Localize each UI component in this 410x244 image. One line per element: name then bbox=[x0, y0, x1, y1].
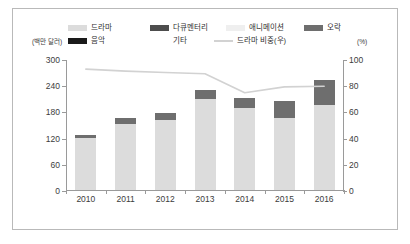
legend-label-drama-share: 드라마 비중(우) bbox=[237, 36, 286, 45]
plot-area: 060120180240300 020406080100 20102011201… bbox=[66, 60, 344, 191]
right-tick-label-100: 100 bbox=[349, 55, 379, 65]
legend-swatch-drama-share bbox=[214, 40, 233, 42]
legend-label-music: 음악 bbox=[91, 36, 105, 45]
x-tick-end bbox=[344, 190, 345, 194]
legend-swatch-entertainment bbox=[304, 25, 323, 31]
x-axis-label-2014: 2014 bbox=[225, 194, 265, 204]
left-tick-label-240: 240 bbox=[30, 81, 60, 91]
left-tick-label-0: 0 bbox=[30, 186, 60, 196]
x-axis-line bbox=[66, 190, 344, 191]
right-tick-80 bbox=[343, 86, 347, 87]
bar-segment-2010-드라마 bbox=[75, 138, 96, 190]
left-axis-unit-label: (백만 달러) bbox=[32, 36, 62, 46]
bar-segment-2013-오락 bbox=[195, 90, 216, 99]
left-tick-300 bbox=[62, 60, 66, 61]
right-tick-label-40: 40 bbox=[349, 134, 379, 144]
right-tick-100 bbox=[343, 60, 347, 61]
right-tick-label-0: 0 bbox=[349, 186, 379, 196]
x-axis-label-2012: 2012 bbox=[145, 194, 185, 204]
right-tick-label-20: 20 bbox=[349, 160, 379, 170]
bar-segment-2010-오락 bbox=[75, 135, 96, 138]
bar-segment-2012-오락 bbox=[155, 113, 176, 120]
bar-group-2011[interactable] bbox=[115, 118, 136, 190]
right-tick-label-80: 80 bbox=[349, 81, 379, 91]
bar-segment-2015-드라마 bbox=[274, 118, 295, 190]
bar-group-2013[interactable] bbox=[195, 90, 216, 190]
bar-segment-2011-오락 bbox=[115, 118, 136, 124]
x-axis-label-2010: 2010 bbox=[66, 194, 106, 204]
right-axis-line bbox=[343, 60, 344, 191]
bar-group-2014[interactable] bbox=[234, 98, 255, 190]
legend-label-other: 기타 bbox=[173, 36, 187, 45]
right-tick-label-60: 60 bbox=[349, 107, 379, 117]
chart-legend: 드라마 음악 다큐멘터리 기타 애니메이션 드라마 비중(우) 오락 bbox=[68, 23, 328, 53]
legend-item-other[interactable]: 기타 bbox=[173, 36, 187, 45]
legend-label-documentary: 다큐멘터리 bbox=[173, 23, 208, 32]
legend-item-drama-share[interactable]: 드라마 비중(우) bbox=[214, 36, 286, 45]
bar-segment-2016-오락 bbox=[314, 80, 335, 105]
x-axis-label-2011: 2011 bbox=[106, 194, 146, 204]
legend-label-drama: 드라마 bbox=[91, 23, 112, 32]
legend-swatch-animation bbox=[226, 25, 245, 31]
legend-swatch-documentary bbox=[150, 25, 169, 31]
legend-item-animation[interactable]: 애니메이션 bbox=[226, 23, 284, 32]
bar-segment-2012-드라마 bbox=[155, 120, 176, 190]
left-tick-label-120: 120 bbox=[30, 134, 60, 144]
right-tick-60 bbox=[343, 112, 347, 113]
bar-group-2010[interactable] bbox=[75, 135, 96, 190]
bar-group-2016[interactable] bbox=[314, 80, 335, 190]
legend-item-entertainment[interactable]: 오락 bbox=[304, 23, 341, 32]
left-tick-60 bbox=[62, 165, 66, 166]
bar-segment-2011-드라마 bbox=[115, 124, 136, 190]
bar-segment-2014-드라마 bbox=[234, 108, 255, 190]
bar-segment-2016-드라마 bbox=[314, 105, 335, 190]
x-axis-label-2016: 2016 bbox=[304, 194, 344, 204]
bar-group-2012[interactable] bbox=[155, 113, 176, 190]
right-tick-20 bbox=[343, 165, 347, 166]
bar-segment-2013-드라마 bbox=[195, 99, 216, 190]
right-tick-40 bbox=[343, 139, 347, 140]
left-tick-240 bbox=[62, 86, 66, 87]
legend-label-animation: 애니메이션 bbox=[249, 23, 284, 32]
x-axis-label-2015: 2015 bbox=[264, 194, 304, 204]
legend-label-entertainment: 오락 bbox=[327, 23, 341, 32]
legend-swatch-drama bbox=[68, 25, 87, 31]
left-tick-180 bbox=[62, 112, 66, 113]
left-tick-label-300: 300 bbox=[30, 55, 60, 65]
bar-segment-2014-오락 bbox=[234, 98, 255, 108]
left-tick-120 bbox=[62, 139, 66, 140]
legend-item-music[interactable]: 음악 bbox=[68, 36, 105, 45]
x-axis-label-2013: 2013 bbox=[185, 194, 225, 204]
legend-swatch-music bbox=[68, 38, 87, 44]
bar-segment-2015-오락 bbox=[274, 101, 295, 118]
left-tick-label-60: 60 bbox=[30, 160, 60, 170]
bar-group-2015[interactable] bbox=[274, 101, 295, 190]
left-tick-label-180: 180 bbox=[30, 107, 60, 117]
legend-item-documentary[interactable]: 다큐멘터리 bbox=[150, 23, 208, 32]
left-axis-line bbox=[66, 60, 67, 191]
legend-item-drama[interactable]: 드라마 bbox=[68, 23, 112, 32]
chart-figure: 드라마 음악 다큐멘터리 기타 애니메이션 드라마 비중(우) 오락 (백만 달… bbox=[0, 0, 410, 244]
right-axis-unit-label: (%) bbox=[357, 38, 367, 45]
